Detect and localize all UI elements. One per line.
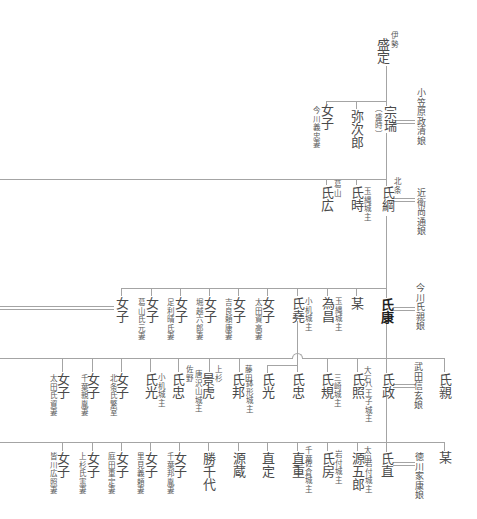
branch-tick — [92, 358, 93, 372]
sibling-bar-g5 — [0, 358, 445, 359]
person-naoshige: 直重 — [290, 452, 304, 478]
person-note: 小机城主 — [303, 297, 311, 331]
person-note: 堀越六郎妻 — [194, 298, 202, 341]
spouse-name: 徳川家康娘 — [414, 452, 424, 500]
person-note: 太田氏資妻 — [48, 374, 56, 417]
branch-tick — [121, 288, 122, 296]
person-daughter: 女子 — [144, 297, 158, 323]
spouse-name: 今川氏親娘 — [415, 283, 425, 331]
person-note: 千葉邦胤妻 — [165, 452, 173, 495]
person-ujinao: 氏直 — [379, 452, 393, 478]
person-note: 皆川広照妻 — [48, 452, 56, 495]
branch-tick — [180, 288, 181, 296]
marriage-line — [393, 384, 415, 385]
branch-tick — [297, 442, 298, 451]
branch-tick — [62, 442, 63, 451]
branch-tick — [327, 358, 328, 372]
person-note: 八王子城主 — [363, 380, 371, 423]
person-bou: 某 — [349, 297, 363, 310]
person-note: 今川義忠妻 — [311, 106, 319, 149]
branch-tick — [267, 365, 268, 373]
branch-tick — [150, 442, 151, 451]
person-naosada: 直定 — [260, 452, 274, 478]
branch-tick — [238, 288, 239, 296]
person-note: 玉縄城主 — [362, 187, 370, 221]
person-kagetora: 景虎 — [200, 373, 214, 399]
person-note: 三崎城主 — [332, 373, 340, 407]
spouse-name: 小笠原政清娘 — [416, 88, 426, 146]
person-ujitada: 氏忠 — [170, 373, 184, 399]
person-soui: 宗瑞 — [382, 106, 396, 132]
sibling-bar-g6 — [0, 442, 445, 443]
branch-tick — [239, 358, 240, 372]
branch-tick — [208, 442, 209, 451]
person-daughter: 女子 — [319, 104, 333, 130]
branch-tick — [356, 101, 357, 109]
branch-tick — [357, 358, 358, 372]
person-prefix: 上杉 — [213, 365, 221, 382]
person-ujihiro: 氏広 — [319, 186, 333, 212]
main-descent-line — [386, 397, 387, 452]
marriage-line-offpage — [0, 309, 114, 310]
sibling-bar-g4 — [121, 288, 386, 289]
person-daughter: 女子 — [85, 452, 99, 478]
person-ujitsuna: 氏綱 — [380, 186, 394, 212]
branch-tick — [178, 358, 179, 372]
branch-tick — [327, 288, 328, 296]
person-daughter: 女子 — [55, 373, 69, 399]
person-note: 岩付城主 — [333, 450, 341, 484]
person-daughter: 女子 — [55, 452, 69, 478]
person-note: 北条氏繁室 — [108, 374, 116, 417]
branch-tick — [121, 442, 122, 451]
person-note: 千葉親胤妻 — [79, 374, 87, 417]
person-daughter: 女子 — [202, 297, 216, 323]
branch-tick — [356, 288, 357, 296]
person-note: 葛山氏元妻 — [136, 298, 144, 341]
person-note: 玉縄城主 — [333, 297, 341, 331]
marriage-line — [393, 387, 415, 388]
person-note: 佐倉城主 — [303, 459, 311, 493]
marriage-line-offpage — [0, 306, 114, 307]
branch-tick — [267, 442, 268, 451]
sibling-bar-g3 — [0, 179, 386, 180]
person-ujimasa: 氏政 — [380, 373, 394, 399]
person-ujitoki: 氏時 — [349, 186, 363, 212]
branch-tick — [121, 358, 122, 372]
marriage-line — [393, 307, 415, 308]
main-descent-line — [386, 320, 387, 373]
person-katsuchiyo: 勝千代 — [201, 452, 215, 491]
person-note: 庭田重定妻 — [106, 452, 114, 495]
ujitaka-children-bar — [267, 365, 297, 366]
branch-tick — [444, 358, 445, 372]
person-note: 里見義頼妻 — [135, 452, 143, 495]
person-daughter: 女子 — [143, 452, 157, 478]
person-daughter: 女子 — [260, 297, 274, 323]
person-ujitada-jr: 氏忠 — [290, 373, 304, 399]
branch-tick — [356, 179, 357, 185]
person-yajiro: 弥次郎 — [349, 110, 363, 149]
branch-tick — [209, 288, 210, 296]
person-prefix: 伊勢 — [389, 31, 397, 48]
branch-tick — [238, 442, 239, 451]
spouse-name: 武田信玄娘 — [413, 362, 423, 410]
person-note: 岩付城主 — [363, 459, 371, 493]
branch-tick — [297, 288, 298, 296]
marriage-line — [393, 198, 415, 199]
branch-tick — [150, 358, 151, 372]
person-ujinori: 氏規 — [319, 373, 333, 399]
marriage-line — [393, 310, 415, 311]
branch-tick — [444, 442, 445, 451]
person-ujitaka: 氏堯 — [290, 297, 304, 323]
person-daughter: 女子 — [172, 452, 186, 478]
branch-tick — [179, 442, 180, 451]
person-daughter: 女子 — [114, 452, 128, 478]
branch-tick — [326, 179, 327, 185]
person-daughter: 女子 — [114, 297, 128, 323]
person-daughter: 女子 — [231, 297, 245, 323]
main-descent-line — [386, 66, 387, 106]
person-daughter: 女子 — [173, 297, 187, 323]
person-ujiyasu: 氏康 — [379, 298, 393, 324]
family-tree-diagram: 伊勢 盛定 女子 今川義忠妻 弥次郎 宗瑞 （盛時） 小笠原政清娘 葛山 氏広 … — [0, 0, 477, 519]
person-genzo: 源蔵 — [231, 452, 245, 478]
person-ujimitsu-jr: 氏光 — [260, 373, 274, 399]
